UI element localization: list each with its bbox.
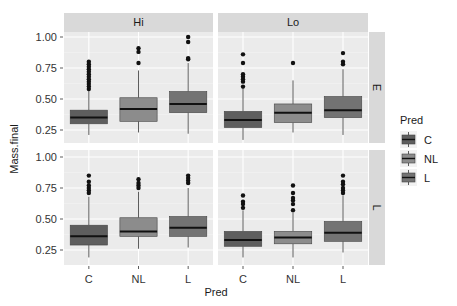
outlier-point (87, 60, 91, 64)
x-tick-label: NL (286, 273, 300, 285)
panel-l-hi (64, 150, 213, 265)
outlier-point (136, 61, 140, 65)
x-axis-title: Pred (204, 286, 227, 298)
facet-strip-label: Hi (133, 16, 143, 28)
legend-label: NL (424, 153, 438, 165)
outlier-point (341, 173, 345, 177)
x-tick-label: C (85, 273, 93, 285)
facet-strip-label: Lo (287, 16, 299, 28)
faceted-boxplot-chart: HiLoEL 0.250.500.751.000.250.500.751.00 … (0, 0, 457, 306)
outlier-point (291, 196, 295, 200)
y-tick-label: 1.00 (36, 151, 57, 163)
outlier-point (136, 177, 140, 181)
y-axes: 0.250.500.751.000.250.500.751.00 (36, 31, 63, 256)
y-tick-label: 0.50 (36, 93, 57, 105)
outlier-point (341, 180, 345, 184)
x-tick-label: NL (131, 273, 145, 285)
y-tick-label: 0.25 (36, 124, 57, 136)
x-tick-label: C (239, 273, 247, 285)
facet-strip-row-label: E (371, 84, 383, 91)
outlier-point (241, 61, 245, 65)
legend-item-c: C (400, 131, 432, 148)
outlier-point (241, 193, 245, 197)
outlier-point (241, 199, 245, 203)
legend-item-nl: NL (400, 150, 438, 167)
y-axis-l: 0.250.500.751.00 (36, 151, 63, 256)
outlier-point (291, 183, 295, 187)
outlier-point (291, 61, 295, 65)
outlier-point (186, 35, 190, 39)
facet-strip-row-label: L (371, 204, 383, 210)
outlier-point (341, 60, 345, 64)
outlier-point (87, 173, 91, 177)
legend: Pred CNLL (400, 114, 438, 186)
y-tick-label: 0.50 (36, 213, 57, 225)
outlier-point (291, 208, 295, 212)
outlier-point (341, 51, 345, 55)
y-tick-label: 0.75 (36, 182, 57, 194)
facet-strip-row-e: E (369, 32, 385, 143)
x-axis-lo: CNLL (239, 266, 346, 285)
outlier-point (87, 180, 91, 184)
outlier-point (186, 56, 190, 60)
legend-label: C (424, 134, 432, 146)
outlier-point (241, 84, 245, 88)
legend-label: L (424, 172, 430, 184)
outlier-point (136, 46, 140, 50)
outlier-point (241, 72, 245, 76)
facet-strip-row-l: L (369, 150, 385, 265)
outlier-point (186, 173, 190, 177)
outlier-point (186, 40, 190, 44)
outlier-point (291, 191, 295, 195)
y-axis-title: Mass.final (8, 124, 20, 174)
panels (64, 32, 368, 265)
y-tick-label: 0.25 (36, 244, 57, 256)
legend-item-l: L (400, 169, 430, 186)
facet-strip-lo: Lo (218, 13, 368, 32)
x-axes: CNLLCNLL (85, 266, 346, 285)
facet-strip-hi: Hi (64, 13, 213, 32)
panel-l-lo (218, 150, 368, 265)
y-tick-label: 0.75 (36, 62, 57, 74)
outlier-point (241, 52, 245, 56)
x-axis-hi: CNLL (85, 266, 191, 285)
panel-e-lo (218, 32, 368, 143)
x-tick-label: L (185, 273, 191, 285)
y-tick-label: 1.00 (36, 31, 57, 43)
panel-e-hi (64, 32, 213, 143)
legend-title: Pred (400, 114, 423, 126)
y-axis-e: 0.250.500.751.00 (36, 31, 63, 136)
x-tick-label: L (340, 273, 346, 285)
